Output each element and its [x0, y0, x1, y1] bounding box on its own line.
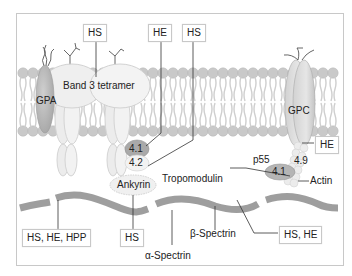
gpc-protein [285, 60, 315, 146]
beta-spectrin-label: β-Spectrin [190, 229, 236, 239]
gpa-label: GPA [36, 96, 56, 106]
protein-4-9-label: 4.9 [294, 156, 308, 166]
p55-label: p55 [253, 155, 270, 165]
actin-label: Actin [310, 176, 332, 186]
disease-box-hs-band3: HS [83, 24, 107, 42]
tropomodulin-label: Tropomodulin [162, 174, 223, 184]
disease-box-he-gpc: HE [315, 136, 339, 154]
disease-box-spectrin-right: HS, HE [279, 226, 322, 244]
band3-label: Band 3 tetramer [63, 81, 135, 91]
protein-4-1-left-label: 4.1 [129, 144, 143, 154]
gpc-label: GPC [288, 106, 310, 116]
membrane-diagram: GPA Band 3 tetramer GPC 4.1 4.2 Ankyrin … [0, 0, 352, 276]
disease-box-spectrin-left: HS, HE, HPP [22, 229, 91, 247]
disease-box-he-4-1: HE [148, 24, 172, 42]
protein-4-1-right-label: 4.1 [272, 167, 286, 177]
disease-box-hs-4-2: HS [182, 24, 206, 42]
disease-box-hs-ankyrin: HS [120, 229, 144, 247]
ankyrin-label: Ankyrin [117, 180, 150, 190]
alpha-spectrin-label: α-Spectrin [145, 251, 191, 261]
protein-4-2-label: 4.2 [129, 158, 143, 168]
